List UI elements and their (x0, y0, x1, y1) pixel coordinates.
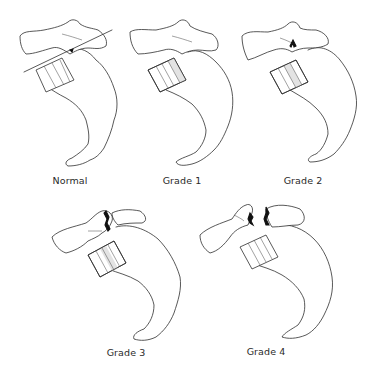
panel-grade-2: Grade 2 (240, 0, 377, 190)
sacrum-drawing-grade-3 (30, 185, 190, 370)
panel-grade-1: Grade 1 (120, 0, 250, 190)
panel-grade-4: Grade 4 (180, 185, 350, 370)
panel-grade-3: Grade 3 (30, 185, 190, 370)
sacrum-drawing-grade-2 (240, 0, 377, 190)
sacrum-drawing-grade-4 (180, 185, 350, 370)
panel-label-grade-3: Grade 3 (107, 347, 146, 358)
panel-label-grade-4: Grade 4 (247, 346, 286, 357)
panel-normal: Normal (0, 0, 125, 190)
spondylolisthesis-figure: Normal Grade 1 Grad (0, 0, 377, 370)
sacrum-drawing-grade-1 (120, 0, 250, 190)
sacrum-drawing-normal (0, 0, 125, 190)
